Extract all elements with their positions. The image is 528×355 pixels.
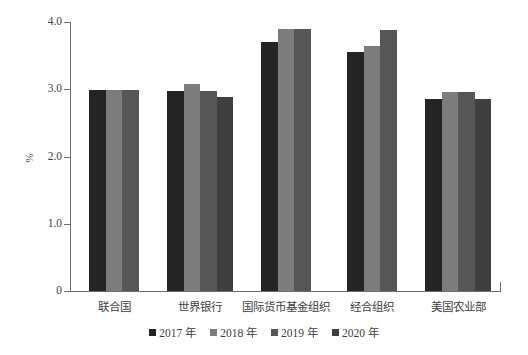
bar[interactable] — [261, 42, 278, 291]
legend-label: 2019 年 — [281, 324, 318, 340]
legend-swatch-icon — [149, 329, 156, 336]
bar[interactable] — [475, 99, 492, 291]
bar[interactable] — [106, 90, 123, 291]
bar[interactable] — [364, 46, 381, 291]
plot-area — [71, 22, 501, 291]
legend-swatch-icon — [332, 329, 339, 336]
bar-group — [167, 22, 233, 291]
y-axis-tick-label: 3.0 — [28, 83, 62, 95]
y-axis-tick-label: 2.0 — [28, 151, 62, 163]
legend-item[interactable]: 2020 年 — [332, 324, 379, 340]
legend-swatch-icon — [271, 329, 278, 336]
bar-group — [347, 22, 397, 291]
bar[interactable] — [200, 91, 217, 291]
bar[interactable] — [425, 99, 442, 291]
bar[interactable] — [347, 52, 364, 291]
legend-swatch-icon — [210, 329, 217, 336]
bar[interactable] — [89, 90, 106, 291]
bar[interactable] — [184, 84, 201, 291]
x-axis-tick-label: 美国农业部 — [358, 298, 528, 314]
bar[interactable] — [167, 91, 184, 291]
bar[interactable] — [278, 29, 295, 291]
chart-legend: 2017 年2018 年2019 年2020 年 — [0, 324, 528, 340]
bar[interactable] — [380, 30, 397, 291]
bar[interactable] — [122, 90, 139, 291]
legend-item[interactable]: 2018 年 — [210, 324, 257, 340]
y-axis-tick-label: 1.0 — [28, 218, 62, 230]
bar[interactable] — [442, 92, 459, 291]
legend-label: 2018 年 — [220, 324, 257, 340]
bar-group — [261, 22, 311, 291]
legend-label: 2017 年 — [159, 324, 196, 340]
bar[interactable] — [294, 29, 311, 291]
y-axis-tick-label: 4.0 — [28, 16, 62, 28]
legend-item[interactable]: 2019 年 — [271, 324, 318, 340]
bar[interactable] — [458, 92, 475, 291]
bar-group — [425, 22, 491, 291]
legend-label: 2020 年 — [342, 324, 379, 340]
x-axis-line — [70, 291, 501, 292]
y-axis-tick-label: 0 — [28, 285, 62, 297]
bar-group — [89, 22, 139, 291]
bar-chart: % 01.02.03.04.0 联合国世界银行国际货币基金组织经合组织美国农业部… — [0, 0, 528, 355]
bar[interactable] — [217, 97, 234, 291]
legend-item[interactable]: 2017 年 — [149, 324, 196, 340]
